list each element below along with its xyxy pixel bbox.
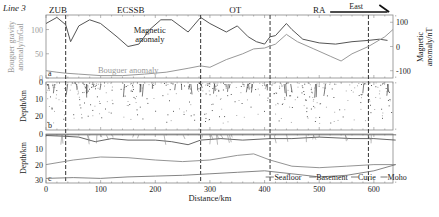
region-label-ecssb: ECSSB <box>117 5 145 15</box>
line-label: Line 3 <box>2 3 26 13</box>
x-tick-label: 400 <box>259 185 271 194</box>
region-label-ot: OT <box>229 5 241 15</box>
panel-letter-b: b <box>48 121 52 130</box>
b-y-axis-label: Depth/km <box>19 89 28 122</box>
left-tick-label: 100 <box>31 26 43 35</box>
b-tick-label: 20 <box>35 112 43 121</box>
euler-tick <box>137 135 138 138</box>
c-tick-label: 0 <box>39 130 43 139</box>
panel-letter-a: a <box>48 69 52 78</box>
left-y-axis-label: Bouguer gravityanomaly/mGal <box>7 21 25 73</box>
x-tick-label: 500 <box>313 185 325 194</box>
panel-b-frame <box>46 82 393 130</box>
x-tick-label: 100 <box>95 185 107 194</box>
euler-solutions <box>46 83 393 124</box>
c-tick-label: 10 <box>35 145 43 154</box>
right-tick-label: -100 <box>396 67 411 76</box>
right-tick-label: 0 <box>396 43 400 52</box>
euler-tick <box>221 135 223 138</box>
magnetic-annotation-2: anomaly <box>135 34 165 44</box>
left-tick-label: 50 <box>35 50 43 59</box>
x-tick-label: 200 <box>149 185 161 194</box>
legend-basement: Basement <box>316 173 348 182</box>
legend-moho: Moho <box>388 173 407 182</box>
x-axis-label: Distance/km <box>188 193 231 203</box>
legend-seafloor: Seafloor <box>274 173 301 182</box>
right-tick-label: 100 <box>396 18 408 27</box>
direction-label: East <box>349 2 364 11</box>
x-tick-label: 600 <box>368 185 380 194</box>
chart-figure: Line 3abcZUBECSSBOTRAEast050100-1000100B… <box>0 0 439 217</box>
euler-tick <box>274 135 276 143</box>
right-y-axis-label: Magneticanomaly/nT <box>416 28 434 67</box>
magnetic-anomaly-line <box>46 17 388 46</box>
euler-tick <box>133 135 134 137</box>
c-tick-label: 20 <box>35 161 43 170</box>
c-tick-label: 30 <box>35 176 43 185</box>
region-label-zub: ZUB <box>49 5 67 15</box>
euler-tick <box>183 135 185 139</box>
euler-tick <box>229 135 231 142</box>
legend-curie: Curie <box>358 173 376 182</box>
basement-line <box>46 136 396 145</box>
euler-tick <box>216 135 217 145</box>
bouguer-annotation: Bouguer anomaly <box>98 65 159 75</box>
x-tick-label: 0 <box>44 185 48 194</box>
euler-tick <box>164 135 166 145</box>
b-tick-label: 10 <box>35 95 43 104</box>
curie-line <box>46 154 396 168</box>
euler-tick <box>101 135 102 137</box>
region-label-ra: RA <box>313 5 326 15</box>
c-y-axis-label: Depth/km <box>19 141 28 174</box>
b-tick-label: 0 <box>39 78 43 87</box>
